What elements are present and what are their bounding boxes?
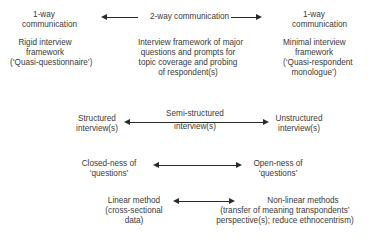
left-body-line3: (‘Quasi-questionnaire’) (10, 58, 80, 68)
closed-ness-label: Closed-ness of ‘questions’ (78, 159, 140, 179)
right-body-line1: Minimal interview (283, 38, 345, 48)
non-linear-line1: Non-linear methods (200, 196, 370, 206)
structured-line1: Structured (72, 114, 122, 124)
unstructured-line1: Unstructured (272, 114, 326, 124)
center-body-line2: questions and prompts for (138, 48, 238, 58)
open-ness-label: Open-ness of ‘questions’ (247, 159, 309, 179)
semi-structured-line2: interview(s) (160, 122, 230, 132)
center-heading: 2-way communication (150, 12, 226, 22)
left-body: Rigid interview framework (‘Quasi-questi… (10, 38, 80, 68)
center-body: Interview framework of major questions a… (138, 38, 238, 78)
linear-line2: (cross-sectional (100, 206, 168, 216)
structured-line2: interview(s) (72, 124, 122, 134)
open-ness-line1: Open-ness of (247, 159, 309, 169)
unstructured-label: Unstructured interview(s) (272, 114, 326, 134)
right-heading-line1: 1-way (292, 10, 336, 20)
left-heading: 1-way communication (22, 10, 66, 30)
arrowhead-right-icon (236, 162, 242, 168)
center-body-line1: Interview framework of major (138, 38, 238, 48)
right-body: Minimal interview framework (‘Quasi-resp… (283, 38, 345, 78)
unstructured-line2: interview(s) (272, 124, 326, 134)
left-body-line1: Rigid interview (10, 38, 80, 48)
connector-line (106, 17, 138, 18)
linear-line1: Linear method (100, 196, 168, 206)
linear-method-label: Linear method (cross-sectional data) (100, 196, 168, 226)
right-heading-line2: communication (292, 20, 336, 30)
structured-label: Structured interview(s) (72, 114, 122, 134)
right-heading: 1-way communication (292, 10, 336, 30)
non-linear-line2: (transfer of meaning transpondents’ (200, 206, 370, 216)
left-body-line2: framework (10, 48, 80, 58)
connector-line (158, 165, 236, 166)
center-body-line4: of respondent(s) (138, 68, 238, 78)
closed-ness-line1: Closed-ness of (78, 159, 140, 169)
arrowhead-right-icon (263, 119, 269, 125)
closed-ness-line2: ‘questions’ (78, 169, 140, 179)
non-linear-line3: perspective(s); reduce ethnocentrism) (200, 216, 370, 226)
arrowhead-right-icon (256, 14, 262, 20)
semi-structured-line1: Semi-structured (160, 109, 230, 119)
center-body-line3: topic coverage and probing (138, 58, 238, 68)
semi-structured-label: Semi-structured interview(s) (160, 109, 230, 132)
linear-line3: data) (100, 216, 168, 226)
non-linear-methods-label: Non-linear methods (transfer of meaning … (200, 196, 370, 226)
left-heading-line2: communication (22, 20, 66, 30)
left-heading-line1: 1-way (22, 10, 66, 20)
right-body-line4: monologue’) (283, 68, 345, 78)
open-ness-line2: ‘questions’ (247, 169, 309, 179)
connector-line (231, 17, 258, 18)
right-body-line2: framework (283, 48, 345, 58)
right-body-line3: (‘Quasi-respondent (283, 58, 345, 68)
